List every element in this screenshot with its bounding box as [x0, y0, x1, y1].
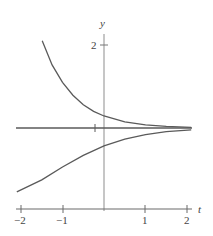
- y-axis-label: y: [99, 17, 105, 29]
- t-tick-label-m1: −1: [56, 214, 68, 226]
- t-axis-label: t: [198, 203, 202, 215]
- y-tick-label-2: 2: [91, 39, 97, 51]
- chart: y 2 −2 −1 1 2 t: [0, 0, 213, 236]
- t-tick-label-2: 2: [184, 214, 190, 226]
- t-tick-label-1: 1: [142, 214, 148, 226]
- upper-solution-curve: [42, 41, 191, 128]
- t-tick-label-m2: −2: [14, 214, 26, 226]
